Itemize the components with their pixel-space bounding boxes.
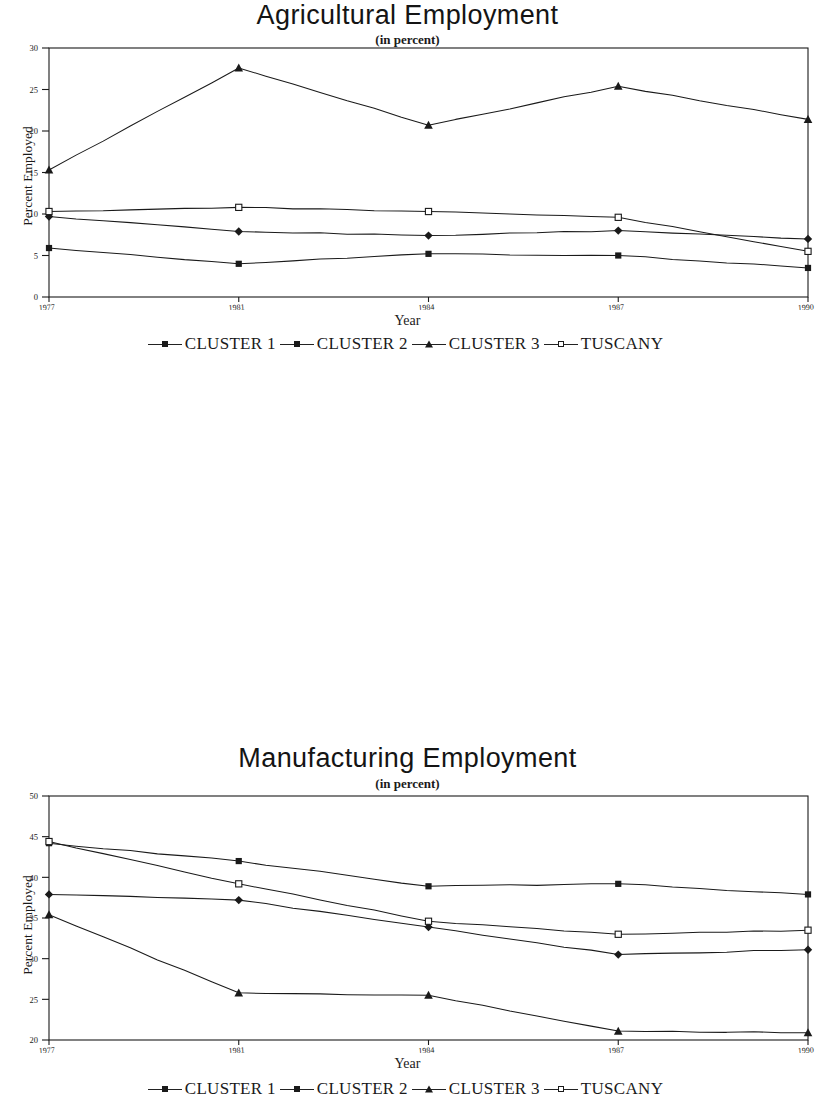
legend-item-tuscany: TUSCANY (544, 334, 667, 354)
svg-text:5: 5 (34, 251, 38, 261)
legend-item-cluster-2: CLUSTER 2 (280, 334, 412, 354)
svg-text:30: 30 (30, 43, 39, 53)
filled-diamond-marker-icon (280, 338, 314, 350)
svg-text:10: 10 (30, 209, 39, 219)
figure-page: Agricultural Employment (in percent) Per… (0, 0, 815, 1112)
filled-triangle-marker-icon (412, 338, 446, 350)
x-axis-label: Year (0, 313, 815, 329)
line-chart-svg: 05101520253019771981198419871990 (0, 40, 815, 310)
svg-text:15: 15 (30, 168, 39, 178)
filled-square-marker-icon (148, 338, 182, 350)
chart-title: Agricultural Employment (0, 2, 815, 29)
svg-text:1984: 1984 (418, 302, 435, 310)
svg-text:25: 25 (30, 85, 39, 95)
legend-label: CLUSTER 2 (317, 334, 408, 354)
legend-label: CLUSTER 3 (449, 334, 540, 354)
chart-manufacturing-employment: Manufacturing Employment (in percent) Pe… (0, 370, 815, 740)
svg-text:0: 0 (34, 292, 38, 302)
svg-text:20: 20 (30, 126, 39, 136)
chart-service-employment: Service Employment (in percent) Percent … (0, 740, 815, 1110)
legend-label: TUSCANY (581, 334, 663, 354)
svg-text:1981: 1981 (228, 302, 245, 310)
open-square-marker-icon (544, 338, 578, 350)
chart-legend: CLUSTER 1 CLUSTER 2 CLUSTER 3 TUSCANY (0, 334, 815, 354)
svg-text:1990: 1990 (798, 302, 815, 310)
chart-agricultural-employment: Agricultural Employment (in percent) Per… (0, 0, 815, 370)
svg-text:1987: 1987 (608, 302, 625, 310)
legend-item-cluster-3: CLUSTER 3 (412, 334, 544, 354)
svg-text:1977: 1977 (39, 302, 56, 310)
legend-item-cluster-1: CLUSTER 1 (148, 334, 280, 354)
legend-label: CLUSTER 1 (185, 334, 276, 354)
plot-area: 05101520253019771981198419871990 (0, 40, 815, 310)
